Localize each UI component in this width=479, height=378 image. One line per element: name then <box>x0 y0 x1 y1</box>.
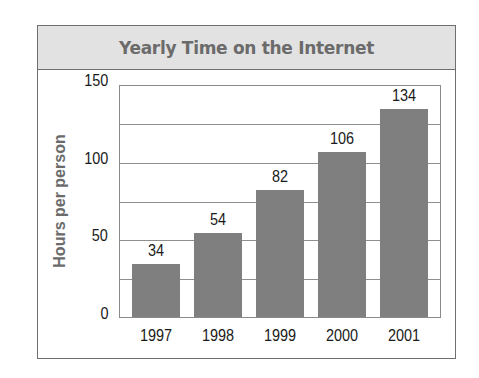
x-tick-label: 1999 <box>255 326 306 346</box>
data-label: 34 <box>131 241 182 261</box>
bar-1998 <box>194 233 242 317</box>
bar-1997 <box>132 264 180 317</box>
data-label: 134 <box>379 86 430 106</box>
y-tick-label: 0 <box>100 304 108 324</box>
bar-2001 <box>380 109 428 317</box>
x-tick-label: 1997 <box>131 326 182 346</box>
chart-title: Yearly Time on the Internet <box>119 38 374 58</box>
data-label: 106 <box>317 129 368 149</box>
x-tick-label: 1998 <box>193 326 244 346</box>
data-label: 82 <box>255 167 306 187</box>
x-tick-label: 2001 <box>379 326 430 346</box>
plot-area <box>119 85 441 318</box>
chart-header: Yearly Time on the Internet <box>38 26 455 70</box>
y-tick-label: 50 <box>92 226 108 246</box>
bar-2000 <box>318 152 366 317</box>
y-tick-label: 150 <box>84 71 108 91</box>
data-label: 54 <box>193 210 244 230</box>
x-tick-label: 2000 <box>317 326 368 346</box>
y-tick-label: 100 <box>84 149 108 169</box>
y-axis-label: Hours per person <box>51 134 69 267</box>
bar-1999 <box>256 190 304 317</box>
